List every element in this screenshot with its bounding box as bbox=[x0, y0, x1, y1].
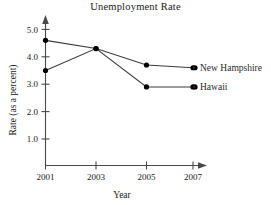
series-new-hampshire bbox=[43, 38, 198, 71]
unemployment-rate-chart: Unemployment Rate 5.0 4.0 3.0 2.0 1.0 bbox=[0, 0, 271, 205]
data-point bbox=[144, 84, 149, 89]
data-point bbox=[43, 68, 48, 73]
data-point bbox=[144, 62, 149, 67]
series-hawaii bbox=[43, 46, 198, 90]
series-label-new-hampshire: New Hampshire bbox=[200, 63, 262, 73]
y-tick-label: 3.0 bbox=[27, 79, 39, 89]
x-tick-label: 2001 bbox=[37, 172, 55, 182]
chart-plot-area: 5.0 4.0 3.0 2.0 1.0 2001 2003 2005 2007 … bbox=[0, 0, 271, 205]
y-tick-label: 4.0 bbox=[27, 52, 39, 62]
series-label-hawaii: Hawaii bbox=[200, 82, 228, 92]
x-axis-title: Year bbox=[113, 190, 131, 200]
y-axis-title: Rate (as a percent) bbox=[8, 65, 19, 136]
x-tick-label: 2003 bbox=[87, 172, 106, 182]
data-point bbox=[93, 46, 98, 51]
y-tick-label: 2.0 bbox=[27, 107, 39, 117]
series-line bbox=[46, 40, 194, 67]
series-points bbox=[43, 38, 198, 71]
y-axis-tick-labels: 5.0 4.0 3.0 2.0 1.0 bbox=[27, 25, 39, 145]
x-axis-arrow-icon bbox=[198, 162, 207, 169]
y-tick-label: 5.0 bbox=[27, 25, 39, 35]
x-axis-tick-labels: 2001 2003 2005 2007 bbox=[37, 172, 203, 182]
data-point bbox=[43, 38, 48, 43]
y-axis-arrow-icon bbox=[42, 15, 49, 24]
x-tick-label: 2005 bbox=[138, 172, 157, 182]
series-line bbox=[46, 49, 194, 87]
y-tick-label: 1.0 bbox=[27, 134, 39, 144]
x-tick-label: 2007 bbox=[184, 172, 203, 182]
series-points bbox=[43, 46, 198, 90]
